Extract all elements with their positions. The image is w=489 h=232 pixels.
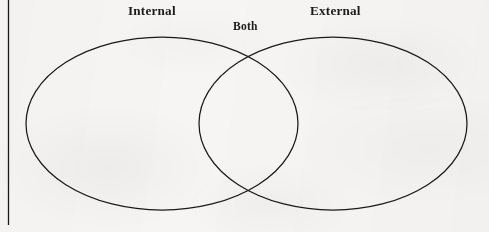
venn-circle-internal (26, 37, 298, 210)
venn-circle-external (199, 37, 467, 210)
venn-diagram-figure: Internal External Both (0, 0, 489, 232)
venn-label-external: External (310, 4, 361, 17)
venn-diagram-canvas (0, 0, 489, 232)
venn-label-both: Both (233, 21, 258, 33)
venn-label-internal: Internal (128, 4, 176, 17)
